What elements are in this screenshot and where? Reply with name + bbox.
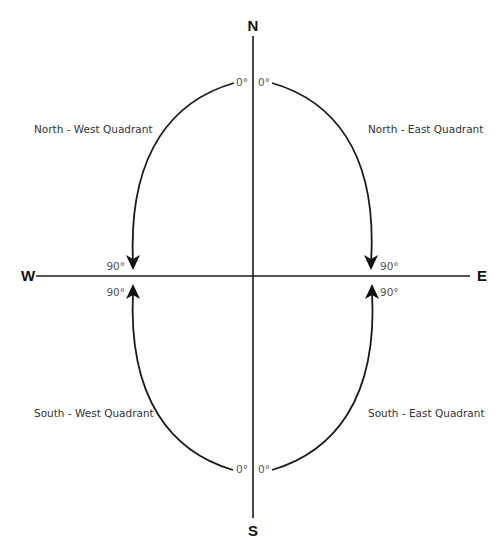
south-east-arc [272,292,373,470]
nw-start-angle: 0° [236,76,248,88]
north-label: N [248,17,259,34]
south-label: S [248,522,258,539]
ne-start-angle: 0° [258,76,270,88]
quadrant-diagram: N S W E 0° 0° 0° 0° 90° 90° 90° 90° Nort… [0,0,502,553]
south-west-arc [133,292,233,470]
se-start-angle: 0° [258,463,270,475]
sw-start-angle: 0° [236,463,248,475]
east-label: E [477,267,487,284]
se-end-angle: 90° [380,286,399,298]
south-east-quadrant-label: South - East Quadrant [368,407,485,419]
south-west-quadrant-label: South - West Quadrant [34,407,154,419]
north-east-arc [272,83,372,262]
west-label: W [21,267,36,284]
nw-end-angle: 90° [106,260,125,272]
north-west-arc [133,83,234,262]
north-west-quadrant-label: North - West Quadrant [34,123,153,135]
sw-end-angle: 90° [106,286,125,298]
ne-end-angle: 90° [380,260,399,272]
north-east-quadrant-label: North - East Quadrant [368,123,483,135]
